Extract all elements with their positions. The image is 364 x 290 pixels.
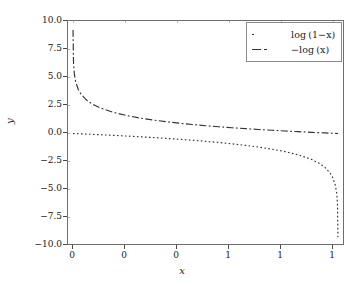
ytick-mark bbox=[63, 48, 67, 49]
ytick-mark bbox=[63, 104, 67, 105]
legend-entry-label: −log (x) bbox=[291, 44, 329, 55]
legend-line-sample-dashdot-icon bbox=[252, 45, 285, 55]
xtick-label: 1 bbox=[268, 250, 292, 260]
ytick-mark bbox=[63, 244, 67, 245]
ytick-mark bbox=[63, 216, 67, 217]
xtick-label: 1 bbox=[320, 250, 344, 260]
legend-entry: −log (x) bbox=[252, 42, 335, 57]
ytick-mark bbox=[63, 132, 67, 133]
xtick-mark bbox=[176, 245, 177, 249]
xtick-mark bbox=[124, 245, 125, 249]
ytick-mark bbox=[63, 20, 67, 21]
y-axis-title: y bbox=[4, 118, 15, 124]
ytick-label: 10.0 bbox=[28, 15, 62, 25]
xtick-mark bbox=[228, 245, 229, 249]
ytick-mark bbox=[63, 160, 67, 161]
xtick-label: 1 bbox=[216, 250, 240, 260]
ytick-label: −5.0 bbox=[28, 183, 62, 193]
xtick-label: 0 bbox=[60, 250, 84, 260]
xtick-mark bbox=[72, 245, 73, 249]
ytick-label: −7.5 bbox=[28, 211, 62, 221]
legend-entry-label: log (1−x) bbox=[291, 29, 335, 40]
ytick-mark bbox=[63, 188, 67, 189]
ytick-label: 0.0 bbox=[28, 127, 62, 137]
xtick-label: 0 bbox=[164, 250, 188, 260]
chart-figure: 0 0 0 1 1 1 10.0 7.5 5.0 2.5 0.0 −2.5 −5… bbox=[0, 0, 364, 290]
ytick-label: 5.0 bbox=[28, 71, 62, 81]
x-axis-title: x bbox=[0, 265, 364, 276]
curve-log-1-minus-x bbox=[73, 134, 338, 238]
xtick-mark bbox=[280, 245, 281, 249]
xtick-label: 0 bbox=[112, 250, 136, 260]
legend-line-sample-dotted-icon bbox=[252, 30, 285, 40]
legend-entry: log (1−x) bbox=[252, 27, 335, 42]
ytick-label: 2.5 bbox=[28, 99, 62, 109]
ytick-label: 7.5 bbox=[28, 43, 62, 53]
ytick-label: −2.5 bbox=[28, 155, 62, 165]
ytick-mark bbox=[63, 76, 67, 77]
ytick-label: −10.0 bbox=[28, 239, 62, 249]
xtick-mark bbox=[332, 245, 333, 249]
legend-box: log (1−x) −log (x) bbox=[246, 22, 342, 62]
